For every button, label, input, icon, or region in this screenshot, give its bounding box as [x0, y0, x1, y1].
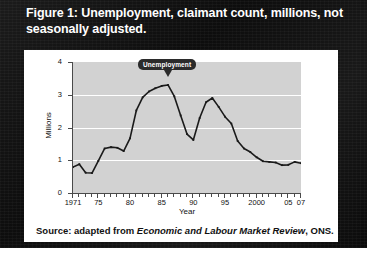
x-axis-title: Year [73, 207, 301, 216]
plot-area [73, 62, 301, 193]
x-tick [173, 194, 174, 197]
x-tick-label: 85 [157, 198, 165, 207]
x-tick [186, 194, 187, 197]
x-tick [237, 194, 238, 197]
source-suffix: , ONS. [305, 225, 334, 236]
x-tick [110, 194, 111, 197]
x-tick [230, 194, 231, 197]
x-tick [135, 194, 136, 197]
x-tick [123, 194, 124, 197]
x-tick [211, 194, 212, 197]
series-unemployment [73, 62, 301, 193]
x-tick [104, 194, 105, 197]
x-tick [91, 194, 92, 197]
y-tick [68, 160, 72, 161]
y-tick-label: 2 [24, 124, 62, 131]
x-tick [275, 194, 276, 197]
x-tick [205, 194, 206, 197]
x-tick [218, 194, 219, 197]
x-tick [116, 194, 117, 197]
y-tick [68, 128, 72, 129]
source-publication: Economic and Labour Market Review [137, 225, 305, 236]
x-tick [78, 194, 79, 197]
y-tick-label: 0 [24, 189, 62, 196]
x-tick [249, 194, 250, 197]
figure-title: Figure 1: Unemployment, claimant count, … [26, 5, 344, 37]
y-tick [68, 95, 72, 96]
x-tick-label: 07 [297, 198, 305, 207]
x-tick [243, 194, 244, 197]
x-tick [142, 194, 143, 197]
unemployment-chart: Millions 01234 1971758085909520000507 Ye… [24, 50, 338, 216]
y-tick-label: 3 [24, 91, 62, 98]
x-tick-label: 80 [126, 198, 134, 207]
x-tick [85, 194, 86, 197]
figure-card: Millions 01234 1971758085909520000507 Ye… [24, 50, 338, 242]
y-axis-line [72, 62, 73, 194]
x-tick-label: 1971 [65, 198, 82, 207]
x-tick-label: 05 [284, 198, 292, 207]
x-tick [281, 194, 282, 197]
figure-frame: Figure 1: Unemployment, claimant count, … [0, 0, 367, 248]
annotation-label: Unemployment [138, 59, 196, 70]
y-tick-label: 4 [24, 58, 62, 65]
x-tick [294, 194, 295, 197]
source-text: Source: adapted from Economic and Labour… [24, 225, 334, 236]
x-tick [154, 194, 155, 197]
x-tick [262, 194, 263, 197]
x-tick [148, 194, 149, 197]
y-tick [68, 62, 72, 63]
x-tick [199, 194, 200, 197]
x-tick [268, 194, 269, 197]
x-tick-label: 90 [189, 198, 197, 207]
x-tick [167, 194, 168, 197]
x-tick-label: 95 [221, 198, 229, 207]
x-tick-label: 75 [94, 198, 102, 207]
source-prefix: Source: adapted from [36, 225, 137, 236]
y-tick-label: 1 [24, 156, 62, 163]
source-bar: Source: adapted from Economic and Labour… [24, 216, 338, 243]
annotation-pointer [164, 70, 172, 77]
x-tick-label: 2000 [248, 198, 265, 207]
x-tick [180, 194, 181, 197]
